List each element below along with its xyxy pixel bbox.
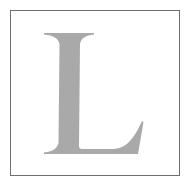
serif-letter-l-icon: L — [0, 0, 193, 192]
